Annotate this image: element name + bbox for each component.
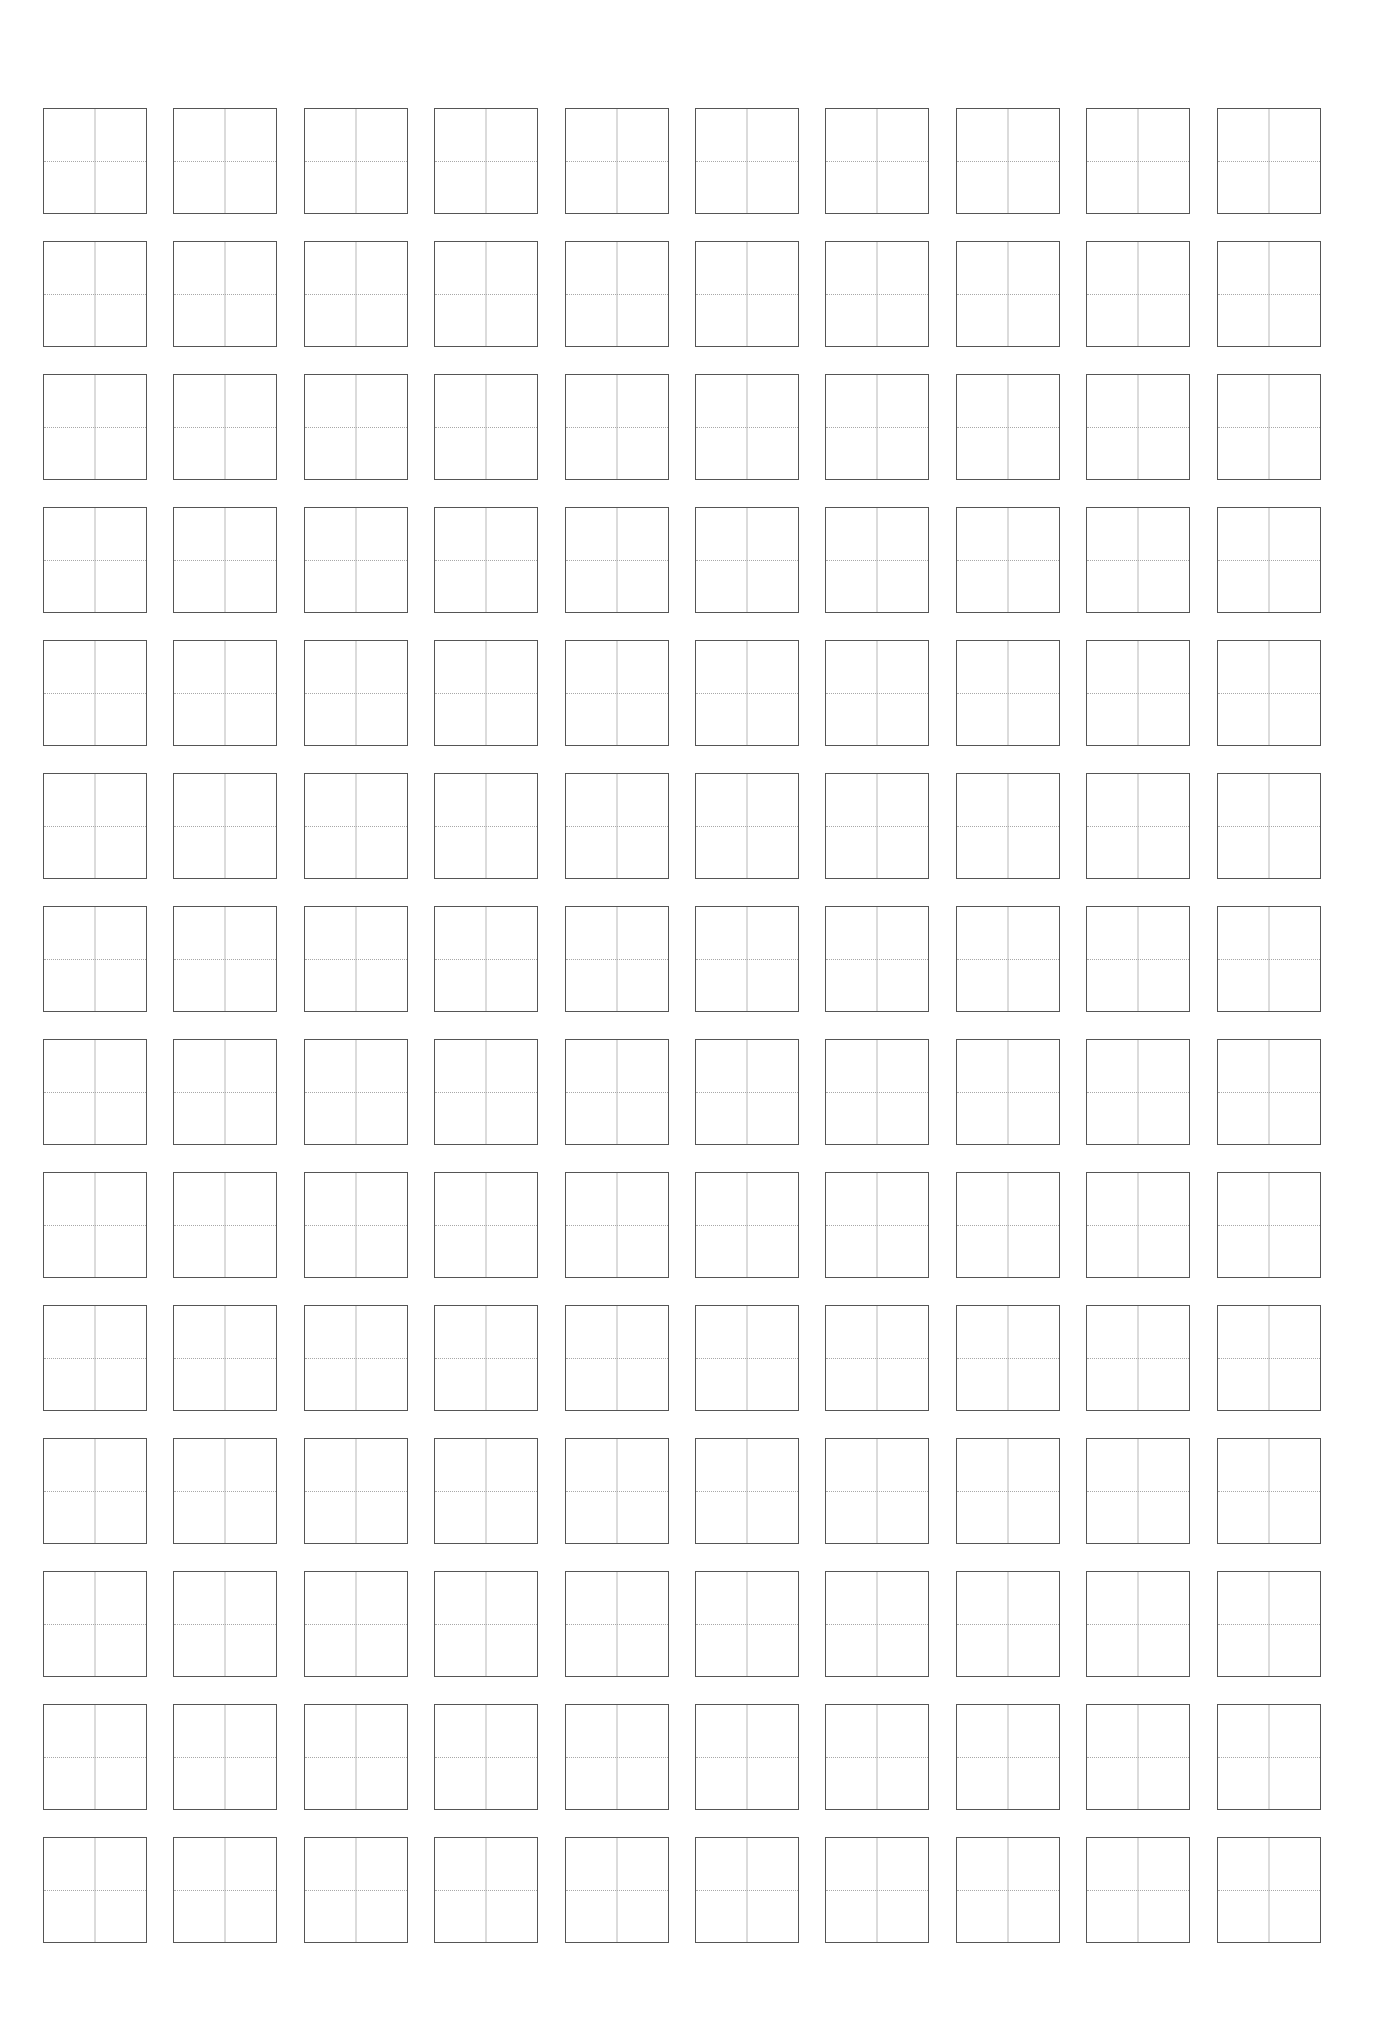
practice-cell — [304, 640, 408, 746]
horizontal-guide-line — [566, 1624, 668, 1625]
grid-row — [43, 773, 1343, 879]
practice-cell — [1086, 108, 1190, 214]
practice-cell — [1217, 906, 1321, 1012]
horizontal-guide-line — [305, 1092, 407, 1093]
practice-cell — [695, 108, 799, 214]
practice-cell — [43, 1837, 147, 1943]
horizontal-guide-line — [1087, 294, 1189, 295]
horizontal-guide-line — [44, 1092, 146, 1093]
grid-row — [43, 1571, 1343, 1677]
horizontal-guide-line — [957, 1757, 1059, 1758]
practice-cell — [434, 507, 538, 613]
practice-cell — [956, 507, 1060, 613]
practice-cell — [434, 640, 538, 746]
practice-cell — [1086, 1571, 1190, 1677]
horizontal-guide-line — [44, 826, 146, 827]
practice-cell — [956, 1571, 1060, 1677]
practice-cell — [825, 108, 929, 214]
practice-cell — [1086, 374, 1190, 480]
horizontal-guide-line — [44, 1757, 146, 1758]
practice-cell — [565, 1571, 669, 1677]
horizontal-guide-line — [435, 1624, 537, 1625]
grid-row — [43, 1438, 1343, 1544]
horizontal-guide-line — [1087, 161, 1189, 162]
practice-cell — [43, 640, 147, 746]
horizontal-guide-line — [826, 1092, 928, 1093]
practice-cell — [695, 1704, 799, 1810]
horizontal-guide-line — [305, 1757, 407, 1758]
practice-cell — [695, 1305, 799, 1411]
practice-cell — [956, 241, 1060, 347]
practice-cell — [565, 374, 669, 480]
practice-cell — [434, 1039, 538, 1145]
practice-cell — [434, 773, 538, 879]
horizontal-guide-line — [435, 693, 537, 694]
practice-cell — [173, 1305, 277, 1411]
practice-cell — [695, 1039, 799, 1145]
practice-cell — [434, 1172, 538, 1278]
horizontal-guide-line — [1087, 959, 1189, 960]
practice-cell — [695, 507, 799, 613]
practice-cell — [825, 1305, 929, 1411]
horizontal-guide-line — [174, 959, 276, 960]
horizontal-guide-line — [826, 161, 928, 162]
horizontal-guide-line — [305, 1890, 407, 1891]
grid-row — [43, 1704, 1343, 1810]
practice-cell — [825, 773, 929, 879]
horizontal-guide-line — [44, 427, 146, 428]
grid-row — [43, 1305, 1343, 1411]
practice-cell — [1217, 1837, 1321, 1943]
horizontal-guide-line — [566, 1757, 668, 1758]
practice-sheet — [0, 0, 1400, 2040]
horizontal-guide-line — [826, 1624, 928, 1625]
horizontal-guide-line — [435, 1092, 537, 1093]
horizontal-guide-line — [696, 161, 798, 162]
horizontal-guide-line — [696, 693, 798, 694]
horizontal-guide-line — [174, 1757, 276, 1758]
practice-cell — [304, 1172, 408, 1278]
practice-cell — [434, 906, 538, 1012]
practice-cell — [825, 241, 929, 347]
practice-cell — [304, 1704, 408, 1810]
horizontal-guide-line — [1087, 1890, 1189, 1891]
horizontal-guide-line — [566, 1225, 668, 1226]
horizontal-guide-line — [957, 1491, 1059, 1492]
horizontal-guide-line — [826, 1757, 928, 1758]
horizontal-guide-line — [174, 560, 276, 561]
practice-cell — [695, 773, 799, 879]
practice-cell — [1217, 1438, 1321, 1544]
horizontal-guide-line — [435, 826, 537, 827]
horizontal-guide-line — [826, 1225, 928, 1226]
horizontal-guide-line — [957, 693, 1059, 694]
practice-cell — [173, 906, 277, 1012]
practice-cell — [43, 108, 147, 214]
horizontal-guide-line — [44, 1890, 146, 1891]
horizontal-guide-line — [566, 427, 668, 428]
horizontal-guide-line — [566, 1358, 668, 1359]
horizontal-guide-line — [1218, 1092, 1320, 1093]
practice-cell — [43, 906, 147, 1012]
practice-cell — [565, 1704, 669, 1810]
horizontal-guide-line — [44, 294, 146, 295]
horizontal-guide-line — [1218, 693, 1320, 694]
horizontal-guide-line — [826, 294, 928, 295]
horizontal-guide-line — [435, 1225, 537, 1226]
practice-cell — [695, 1837, 799, 1943]
practice-cell — [43, 1172, 147, 1278]
horizontal-guide-line — [826, 560, 928, 561]
horizontal-guide-line — [696, 1092, 798, 1093]
practice-cell — [1086, 1305, 1190, 1411]
horizontal-guide-line — [696, 1225, 798, 1226]
horizontal-guide-line — [435, 959, 537, 960]
horizontal-guide-line — [1087, 427, 1189, 428]
grid-row — [43, 906, 1343, 1012]
practice-cell — [565, 1305, 669, 1411]
horizontal-guide-line — [1087, 1358, 1189, 1359]
practice-cell — [434, 1837, 538, 1943]
horizontal-guide-line — [305, 1491, 407, 1492]
horizontal-guide-line — [174, 427, 276, 428]
practice-cell — [1217, 640, 1321, 746]
horizontal-guide-line — [174, 161, 276, 162]
horizontal-guide-line — [1218, 1225, 1320, 1226]
horizontal-guide-line — [1087, 826, 1189, 827]
